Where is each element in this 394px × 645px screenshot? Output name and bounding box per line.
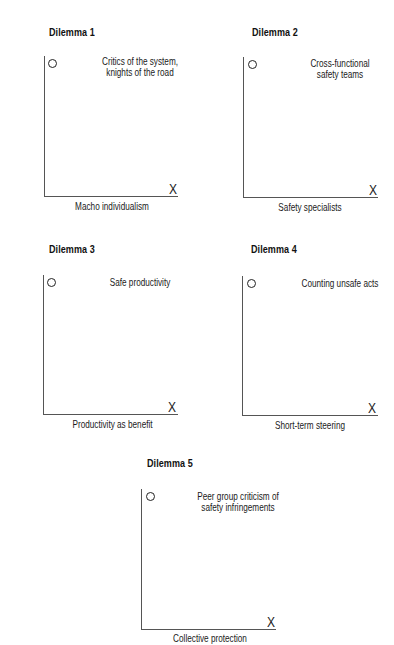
y-axis [243, 57, 244, 198]
corner-label: Counting unsafe acts [301, 278, 379, 289]
x-axis-label: Collective protection [155, 633, 264, 644]
corner-label: Critics of the system, knights of the ro… [93, 56, 187, 78]
circle-marker-icon [47, 278, 56, 287]
circle-marker-icon [146, 492, 155, 501]
dilemma-title: Dilemma 5 [147, 457, 193, 469]
x-axis [44, 196, 178, 197]
x-axis-label: Macho individualism [57, 201, 166, 212]
corner-label-line: knights of the road [93, 67, 187, 78]
y-axis [141, 489, 142, 630]
x-axis [43, 414, 178, 415]
corner-label: Safe productivity [105, 277, 175, 288]
dilemma-title: Dilemma 1 [49, 26, 95, 38]
x-marker-icon: X [168, 399, 176, 414]
y-axis [43, 275, 44, 415]
circle-marker-icon [247, 279, 256, 288]
x-axis [141, 629, 276, 630]
x-marker-icon: X [368, 400, 376, 415]
x-marker-icon: X [267, 614, 275, 629]
corner-label-line: safety teams [305, 69, 375, 80]
circle-marker-icon [48, 59, 57, 68]
y-axis [44, 56, 45, 197]
x-axis-label: Productivity as benefit [56, 419, 169, 430]
x-axis-label: Safety specialists [259, 202, 360, 213]
corner-label-line: Counting unsafe acts [301, 278, 379, 289]
dilemma-title: Dilemma 4 [251, 243, 297, 255]
corner-label-line: safety infringements [191, 502, 285, 513]
corner-label: Peer group criticism of safety infringem… [191, 491, 285, 513]
dilemma-title: Dilemma 2 [252, 26, 298, 38]
x-axis-label: Short-term steering [259, 420, 360, 431]
circle-marker-icon [248, 60, 257, 69]
y-axis [242, 276, 243, 416]
x-marker-icon: X [369, 182, 377, 197]
x-marker-icon: X [169, 181, 177, 196]
x-axis [242, 415, 378, 416]
corner-label: Cross-functional safety teams [305, 58, 375, 80]
dilemma-title: Dilemma 3 [49, 243, 95, 255]
corner-label-line: Safe productivity [105, 277, 175, 288]
x-axis [243, 197, 378, 198]
